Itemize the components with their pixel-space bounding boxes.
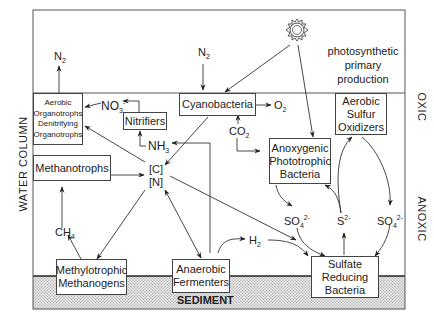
water-column-label: WATER COLUMN <box>17 116 29 211</box>
methanotrophs-box: Methanotrophs <box>33 155 111 181</box>
carbon-nitrogen-pool: [C] [N] <box>146 163 166 189</box>
cyanobacteria-box: Cyanobacteria <box>179 93 256 116</box>
box-line: Phototrophic <box>269 155 331 168</box>
n2-top-label: N2 <box>198 46 210 63</box>
box-line: Bacteria <box>325 284 365 297</box>
anoxic-label: ANOXIC <box>416 196 428 241</box>
species-sup: - <box>123 99 125 106</box>
no3-label: NO3- <box>101 97 125 117</box>
box-line: Organotrophs <box>34 109 83 120</box>
species-base: SO <box>284 215 300 227</box>
species-sup: 2- <box>397 214 403 221</box>
label-line: primary <box>313 58 413 72</box>
species-sub: 2 <box>62 57 66 64</box>
species-base: CH <box>55 226 71 238</box>
box-line: Methanogens <box>58 277 125 290</box>
co2-label: CO2 <box>229 125 249 142</box>
box-line: Methylotrophic <box>56 264 128 277</box>
box-line: Anoxygenic <box>272 142 329 155</box>
box-line: Organotrophs <box>34 130 83 141</box>
aerobic-organotrophs-box: Aerobic Organotrophs Denitrifying Organo… <box>33 93 83 145</box>
species-sub: 4 <box>393 222 397 229</box>
o2-label: O2 <box>274 99 286 116</box>
oxic-label: OXIC <box>416 93 428 122</box>
species-sub: 2 <box>206 53 210 60</box>
s2-label: S2- <box>337 212 351 227</box>
species-sub: 4 <box>300 222 304 229</box>
species-base: CO <box>229 125 246 137</box>
box-line: Denitrifying <box>38 119 78 130</box>
species-base: N <box>54 50 62 62</box>
box-line: Aerobic <box>44 98 71 109</box>
box-line: Anaerobic <box>176 263 226 276</box>
nitrifiers-box: Nitrifiers <box>123 112 167 130</box>
box-line: Sulfate <box>328 258 362 271</box>
box-line: Fermenters <box>173 276 229 289</box>
species-base: NH <box>148 139 165 153</box>
species-sub: 2 <box>283 106 287 113</box>
nitrogen-label: [N] <box>146 176 166 189</box>
box-line: Nitrifiers <box>125 115 165 128</box>
species-base: SO <box>377 215 393 227</box>
box-line: Oxidizers <box>338 121 384 134</box>
box-line: Bacteria <box>280 168 320 181</box>
species-base: N <box>198 46 206 58</box>
box-line: Sulfur <box>347 108 376 121</box>
species-sub: 2 <box>257 241 261 248</box>
anoxygenic-phototrophic-box: Anoxygenic Phototrophic Bacteria <box>269 138 331 184</box>
primary-production-label: photosynthetic primary production <box>313 44 413 86</box>
box-line: Cyanobacteria <box>182 98 253 111</box>
species-sub: 2 <box>246 132 250 139</box>
species-base: H <box>249 234 257 246</box>
so4-left-label: SO42- <box>284 212 310 232</box>
label-line: production <box>313 72 413 86</box>
box-line: Methanotrophs <box>35 162 108 175</box>
so4-right-label: SO42- <box>377 212 403 232</box>
species-sub: 4 <box>71 233 75 240</box>
nh3-label: NH3 <box>148 140 169 157</box>
ch4-label: CH4 <box>55 226 75 243</box>
species-base: O <box>274 99 283 111</box>
species-sub: 3 <box>165 147 169 154</box>
h2-label: H2 <box>249 234 261 251</box>
carbon-label: [C] <box>146 163 166 176</box>
box-line: Reducing <box>322 271 368 284</box>
aerobic-sulfur-oxidizers-box: Aerobic Sulfur Oxidizers <box>335 93 387 135</box>
species-base: NO <box>101 99 119 113</box>
sulfate-reducing-box: Sulfate Reducing Bacteria <box>311 256 379 298</box>
sediment-label: SEDIMENT <box>177 294 234 306</box>
methylotrophic-methanogens-box: Methylotrophic Methanogens <box>56 259 127 295</box>
anaerobic-fermenters-box: Anaerobic Fermenters <box>172 259 230 293</box>
species-sub: 3 <box>119 107 123 114</box>
sun-icon <box>286 19 308 41</box>
box-line: Aerobic <box>342 95 379 108</box>
label-line: photosynthetic <box>313 44 413 58</box>
n2-left-label: N2 <box>54 50 66 67</box>
species-sup: 2- <box>344 214 350 221</box>
species-sup: 2- <box>304 214 310 221</box>
